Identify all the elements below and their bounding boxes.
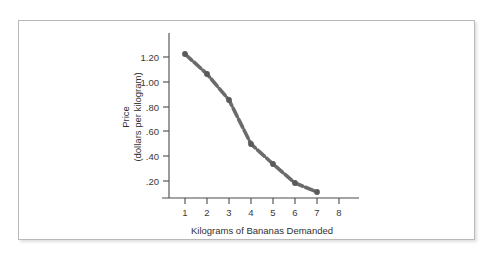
- demand-curve-markers: [182, 51, 320, 195]
- x-tick-label: 8: [336, 207, 341, 218]
- x-axis-title: Kilograms of Bananas Demanded: [191, 225, 333, 236]
- data-point: [270, 161, 276, 167]
- x-tick-label: 2: [204, 207, 209, 218]
- data-point: [314, 189, 320, 195]
- y-tick-label: 1.20: [141, 52, 160, 63]
- figure-frame: 1.20 1.00 .80 .60 .40 .20 1: [18, 20, 475, 240]
- data-point: [204, 71, 210, 77]
- x-tick-label: 1: [182, 207, 187, 218]
- y-tick-label: .80: [146, 102, 159, 113]
- x-axis-tick-labels: 1 2 3 4 5 6 7 8: [182, 207, 341, 218]
- y-axis-title: Price (dollars per kilogram): [120, 72, 143, 161]
- y-axis-title-line2: (dollars per kilogram): [132, 72, 143, 161]
- figure-root: 1.20 1.00 .80 .60 .40 .20 1: [0, 0, 496, 255]
- y-tick-label: .40: [146, 151, 159, 162]
- demand-curve-chart: 1.20 1.00 .80 .60 .40 .20 1: [19, 21, 474, 239]
- x-tick-label: 3: [226, 207, 231, 218]
- x-tick-label: 6: [292, 207, 297, 218]
- x-axis-ticks: [185, 198, 339, 204]
- y-tick-label: 1.00: [141, 77, 160, 88]
- data-point: [248, 141, 254, 147]
- data-point: [292, 180, 298, 186]
- y-tick-label: .60: [146, 126, 159, 137]
- x-tick-label: 4: [248, 207, 253, 218]
- y-tick-label: .20: [146, 176, 159, 187]
- data-point: [182, 51, 188, 57]
- y-axis-ticks: [163, 57, 169, 181]
- y-axis-title-line1: Price: [120, 106, 131, 128]
- data-point: [226, 97, 232, 103]
- y-axis-tick-labels: 1.20 1.00 .80 .60 .40 .20: [141, 52, 160, 187]
- x-tick-label: 5: [270, 207, 275, 218]
- x-tick-label: 7: [314, 207, 319, 218]
